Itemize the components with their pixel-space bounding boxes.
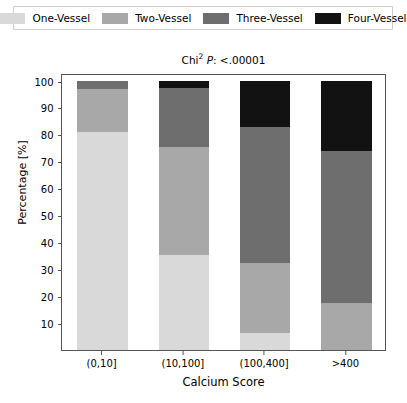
legend-swatch-icon bbox=[0, 13, 25, 24]
bar-segment[interactable] bbox=[240, 263, 290, 333]
y-axis-ticks: 102030405060708090100 bbox=[0, 74, 61, 351]
y-tick-label: 90 bbox=[41, 103, 58, 114]
x-tick-mark bbox=[264, 351, 265, 355]
x-axis-ticks: (0,10](10,100](100,400]>400 bbox=[61, 351, 386, 373]
x-tick-mark bbox=[182, 351, 183, 355]
stacked-bar[interactable] bbox=[159, 75, 209, 350]
legend-label: One-Vessel bbox=[32, 13, 90, 24]
bar-segment[interactable] bbox=[321, 151, 371, 303]
y-tick-label: 60 bbox=[41, 184, 58, 195]
y-tick-label: 70 bbox=[41, 157, 58, 168]
plot-axes bbox=[61, 74, 386, 351]
legend-entry[interactable]: Two-Vessel bbox=[102, 13, 191, 24]
legend-label: Two-Vessel bbox=[135, 13, 191, 24]
bar-segment[interactable] bbox=[240, 127, 290, 263]
y-tick-label: 20 bbox=[41, 292, 58, 303]
legend-entry[interactable]: Three-Vessel bbox=[203, 13, 302, 24]
legend-swatch-icon bbox=[102, 13, 128, 24]
stacked-bar[interactable] bbox=[321, 75, 371, 350]
y-tick-label: 30 bbox=[41, 265, 58, 276]
bar-segment[interactable] bbox=[240, 333, 290, 350]
y-tick-label: 50 bbox=[41, 211, 58, 222]
bar-segment[interactable] bbox=[321, 81, 371, 151]
y-tick-label: 10 bbox=[41, 319, 58, 330]
legend-label: Three-Vessel bbox=[236, 13, 302, 24]
x-axis-label: Calcium Score bbox=[61, 375, 386, 389]
x-tick-label: (10,100] bbox=[161, 358, 204, 369]
x-tick-mark bbox=[101, 351, 102, 355]
y-tick-label: 80 bbox=[41, 130, 58, 141]
bar-segment[interactable] bbox=[159, 88, 209, 147]
legend-entry[interactable]: Four-Vessel bbox=[315, 13, 407, 24]
chart-legend: One-VesselTwo-VesselThree-VesselFour-Ves… bbox=[13, 6, 393, 30]
y-axis-label: Percentage [%] bbox=[16, 98, 29, 268]
bar-segment[interactable] bbox=[77, 132, 127, 350]
stacked-bar[interactable] bbox=[77, 75, 127, 350]
legend-entry[interactable]: One-Vessel bbox=[0, 13, 90, 24]
legend-swatch-icon bbox=[315, 13, 341, 24]
bar-segment[interactable] bbox=[77, 81, 127, 89]
x-tick-label: >400 bbox=[332, 358, 359, 369]
chart-title: Chi2 P: <.00001 bbox=[61, 52, 386, 66]
x-tick: (0,10] bbox=[87, 351, 117, 369]
legend-swatch-icon bbox=[203, 13, 229, 24]
stacked-bar[interactable] bbox=[240, 75, 290, 350]
bar-segment[interactable] bbox=[321, 303, 371, 350]
x-tick: (100,400] bbox=[240, 351, 289, 369]
x-tick-mark bbox=[345, 351, 346, 355]
bar-segment[interactable] bbox=[159, 255, 209, 350]
x-tick-label: (0,10] bbox=[87, 358, 117, 369]
x-tick: (10,100] bbox=[161, 351, 204, 369]
bar-segment[interactable] bbox=[159, 147, 209, 255]
plot-area bbox=[62, 75, 385, 350]
y-tick-label: 100 bbox=[34, 77, 57, 88]
y-tick-label: 40 bbox=[41, 238, 58, 249]
legend-label: Four-Vessel bbox=[348, 13, 407, 24]
bar-segment[interactable] bbox=[77, 89, 127, 132]
x-tick: >400 bbox=[332, 351, 359, 369]
bar-segment[interactable] bbox=[240, 81, 290, 127]
bar-segment[interactable] bbox=[159, 81, 209, 88]
x-tick-label: (100,400] bbox=[240, 358, 289, 369]
